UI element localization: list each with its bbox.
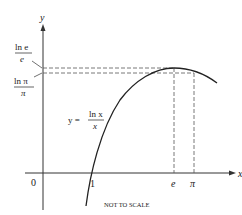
function-numerator: ln x: [89, 109, 103, 119]
ln-pi-numerator: ln π: [14, 76, 28, 86]
curve-ln-x-over-x: [86, 68, 217, 206]
x-tick-1: 1: [90, 178, 95, 189]
x-axis-arrow-icon: [229, 171, 236, 176]
function-lhs: y =: [68, 115, 80, 125]
graph-canvas: y x 0 1 e π ln e e ln π π y = ln x x NOT…: [0, 0, 242, 215]
x-axis-label: x: [237, 168, 242, 179]
not-to-scale-note: NOT TO SCALE: [104, 201, 150, 208]
ln-e-pointer: [32, 61, 42, 68]
x-tick-e: e: [171, 178, 176, 189]
ln-e-numerator: ln e: [15, 42, 28, 52]
function-denominator: x: [92, 121, 97, 131]
origin-label: 0: [31, 177, 36, 188]
x-tick-pi: π: [190, 178, 196, 189]
y-axis-arrow-icon: [41, 24, 46, 31]
ln-pi-denominator: π: [21, 88, 26, 98]
ln-pi-pointer: [34, 73, 42, 77]
ln-e-denominator: e: [20, 54, 24, 64]
y-axis-label: y: [39, 12, 45, 23]
